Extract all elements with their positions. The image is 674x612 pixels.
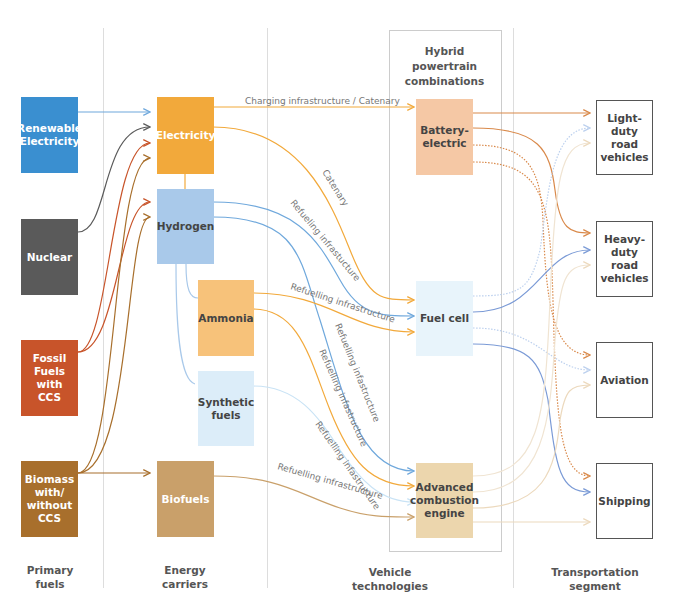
connection-lines: Charging infrastructure / Catenary Caten… [0, 0, 674, 612]
carrier-biofuels: Biofuels [157, 461, 214, 537]
primary-nuclear: Nuclear [21, 219, 78, 295]
label-h2-refuel-ice: Refuelling infastructure [333, 322, 382, 424]
column-label-vehicle-technologies: Vehicle technologies [340, 565, 440, 593]
primary-renewable-electricity: Renewable Electricity [21, 97, 78, 173]
label-nh3-refuel-fc: Refuelling infrastructure [289, 281, 396, 324]
tech-battery-electric: Battery- electric [416, 99, 473, 175]
carrier-ammonia: Ammonia [198, 280, 254, 356]
energy-pathways-diagram: Hybrid powertrain combinations [0, 0, 674, 612]
column-label-transportation-segment: Transportation segment [540, 565, 650, 593]
carrier-electricity: Electricity [157, 97, 214, 174]
column-label-primary-fuels: Primary fuels [10, 563, 90, 591]
label-bio-refuel-ice: Refuelling infrastructure [276, 461, 384, 501]
column-label-energy-carriers: Energy carriers [145, 563, 225, 591]
tech-advanced-combustion-engine: Advanced combustion engine [416, 463, 473, 538]
primary-biomass: Biomass with/ without CCS [21, 461, 78, 537]
segment-light-duty: Light-duty road vehicles [596, 100, 653, 175]
label-charging: Charging infrastructure / Catenary [245, 96, 401, 106]
carrier-synthetic-fuels: Synthetic fuels [198, 371, 254, 446]
label-catenary: Catenary [320, 168, 351, 209]
segment-aviation: Aviation [596, 342, 653, 418]
carrier-hydrogen: Hydrogen [157, 189, 214, 264]
segment-heavy-duty: Heavy-duty road vehicles [596, 221, 653, 297]
primary-fossil-fuels-ccs: Fossil Fuels with CCS [21, 340, 78, 416]
label-h2-refuel-fc: Refueling infrastucture [288, 198, 362, 284]
tech-fuel-cell: Fuel cell [416, 281, 473, 356]
segment-shipping: Shipping [596, 463, 653, 539]
